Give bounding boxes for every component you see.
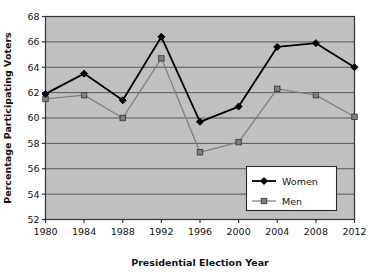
x-axis-tick-label: 2004 <box>265 226 289 237</box>
data-point <box>236 139 241 144</box>
data-point <box>197 150 202 155</box>
x-axis-tick-label: 2008 <box>304 226 328 237</box>
x-axis-tick-label: 2012 <box>342 226 366 237</box>
y-axis-tick-label: 58 <box>27 138 39 149</box>
y-axis-title: Percentage Participating Voters <box>2 32 13 204</box>
y-axis-tick-label: 68 <box>27 11 39 22</box>
data-point <box>159 56 164 61</box>
data-point <box>313 92 318 97</box>
y-axis: 525456586062646668 <box>27 11 45 225</box>
line-chart: 525456586062646668 198019841988199219962… <box>0 0 372 276</box>
legend-label: Women <box>282 176 318 187</box>
chart-canvas: 525456586062646668 198019841988199219962… <box>0 0 372 276</box>
x-axis-tick-label: 1988 <box>111 226 135 237</box>
y-axis-tick-label: 52 <box>27 214 39 225</box>
x-axis-tick-label: 1980 <box>33 226 57 237</box>
x-axis-tick-label: 2000 <box>227 226 251 237</box>
chart-legend: WomenMen <box>247 167 337 211</box>
y-axis-tick-label: 62 <box>27 87 39 98</box>
x-axis-tick-label: 1984 <box>72 226 96 237</box>
data-point <box>81 92 86 97</box>
x-axis-title: Presidential Election Year <box>131 257 269 268</box>
data-point <box>352 114 357 119</box>
y-axis-tick-label: 66 <box>27 36 39 47</box>
data-point <box>120 115 125 120</box>
legend-marker <box>261 198 266 203</box>
y-axis-tick-label: 56 <box>27 163 39 174</box>
legend-label: Men <box>282 196 302 207</box>
x-axis-tick-label: 1992 <box>149 226 173 237</box>
y-axis-tick-label: 60 <box>27 112 39 123</box>
data-point <box>275 86 280 91</box>
x-axis-tick-label: 1996 <box>188 226 212 237</box>
y-axis-tick-label: 64 <box>27 62 39 73</box>
chart-page: 525456586062646668 198019841988199219962… <box>0 0 372 276</box>
y-axis-tick-label: 54 <box>27 189 39 200</box>
x-axis: 198019841988199219962000200420082012 <box>33 220 366 237</box>
